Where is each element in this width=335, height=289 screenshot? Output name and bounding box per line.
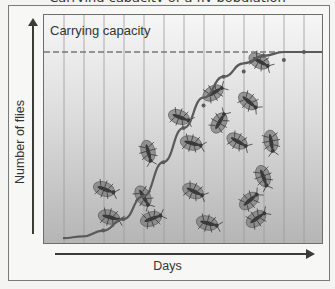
x-axis-label: Days: [0, 259, 335, 273]
data-point: [242, 69, 246, 73]
data-point: [121, 217, 125, 221]
data-point: [161, 160, 165, 164]
plot-area: Carrying capacity: [43, 14, 323, 244]
data-point: [302, 50, 306, 54]
fly-icon: [206, 106, 235, 138]
x-axis-arrow-icon: [55, 253, 307, 255]
fly-icon: [91, 177, 122, 203]
figure-title: Carrying capacity of a fly population: [0, 0, 335, 2]
y-axis-label: Number of flies: [13, 100, 27, 184]
fly-icon: [138, 205, 169, 231]
fly-icon: [260, 129, 282, 158]
fly-icon: [136, 138, 160, 168]
fly-icon: [178, 131, 208, 155]
population-curve-chart: [44, 15, 323, 244]
carrying-capacity-label: Carrying capacity: [50, 23, 150, 38]
fly-icon: [234, 87, 265, 118]
data-point: [202, 104, 206, 108]
data-point: [282, 58, 286, 62]
fly-icon: [194, 211, 224, 235]
data-point: [181, 126, 185, 130]
data-point: [141, 194, 145, 198]
data-point: [101, 229, 105, 233]
fly-icon: [223, 128, 255, 157]
data-point: [262, 54, 266, 58]
data-point: [222, 75, 226, 79]
y-axis-arrow-icon: [32, 24, 34, 234]
